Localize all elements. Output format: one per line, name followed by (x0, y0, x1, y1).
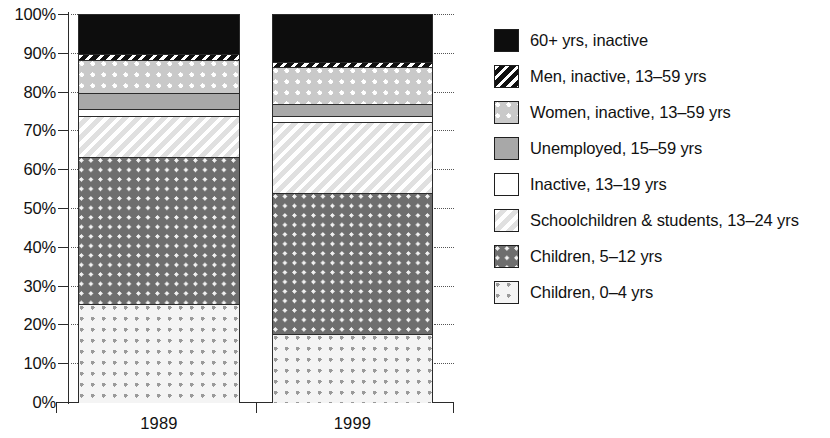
y-gridline-dots-left-90 (71, 53, 78, 54)
legend-item: Schoolchildren & students, 13–24 yrs (494, 202, 830, 238)
legend-swatch-hatch-bold-icon (494, 65, 519, 88)
y-axis-tick-mark-100 (58, 14, 69, 15)
y-gridline-dots-right-40 (434, 247, 454, 248)
y-axis-tick-mark-80 (58, 92, 69, 93)
legend-swatch-dot-light-icon (494, 101, 519, 124)
legend-swatch-solid-black-icon (494, 29, 519, 52)
y-axis-tick-mark-30 (58, 286, 69, 287)
legend-item: Women, inactive, 13–59 yrs (494, 94, 830, 130)
legend-item: Men, inactive, 13–59 yrs (494, 58, 830, 94)
y-gridline-dots-left-20 (71, 324, 78, 325)
bar-segment-1989-2 (79, 116, 239, 157)
y-axis-tick-mark-40 (58, 247, 69, 248)
y-axis-tick-mark-70 (58, 130, 69, 131)
bar-segment-1989-1 (79, 157, 239, 304)
legend-item-label: Women, inactive, 13–59 yrs (530, 103, 731, 122)
y-gridline-dots-left-60 (71, 169, 78, 170)
legend: 60+ yrs, inactiveMen, inactive, 13–59 yr… (494, 22, 830, 310)
legend-item: Children, 0–4 yrs (494, 274, 830, 310)
legend-swatch-solid-gray-icon (494, 137, 519, 160)
bar-1999 (272, 14, 433, 402)
y-gridline-dots-right-30 (434, 286, 454, 287)
y-gridline-dots-right-70 (434, 130, 454, 131)
y-gridline-dots-right-60 (434, 169, 454, 170)
legend-item-label: Men, inactive, 13–59 yrs (530, 67, 706, 86)
bar-segment-1999-3 (273, 116, 432, 122)
legend-item: Inactive, 13–19 yrs (494, 166, 830, 202)
legend-swatch-dot-dark-icon (494, 245, 519, 268)
legend-item-label: Unemployed, 15–59 yrs (530, 139, 702, 158)
bar-segment-1989-5 (79, 60, 239, 94)
y-gridline-dots-left-80 (71, 92, 78, 93)
y-gridline-dots-right-80 (434, 92, 454, 93)
legend-item: 60+ yrs, inactive (494, 22, 830, 58)
y-gridline-dots-right-90 (434, 53, 454, 54)
y-axis-tick-mark-60 (58, 169, 69, 170)
bar-segment-1999-0 (273, 334, 432, 403)
y-gridline-dots-left-50 (71, 208, 78, 209)
bar-segment-1999-4 (273, 104, 432, 116)
y-axis-tick-mark-50 (58, 208, 69, 209)
legend-item-label: Children, 0–4 yrs (530, 283, 653, 302)
x-axis-label-1999: 1999 (272, 414, 433, 433)
legend-swatch-white-icon (494, 173, 519, 196)
y-gridline-dots-left-10 (71, 363, 78, 364)
x-axis-tick-mark-1 (256, 402, 257, 413)
y-gridline-dots-right-20 (434, 324, 454, 325)
bar-segment-1989-3 (79, 109, 239, 116)
bar-segment-1999-1 (273, 193, 432, 333)
legend-item-label: Inactive, 13–19 yrs (530, 175, 667, 194)
plot-area: 1989 1999 (0, 0, 460, 438)
y-gridline-dots-right-50 (434, 208, 454, 209)
bar-segment-1989-0 (79, 304, 239, 403)
bar-segment-1999-5 (273, 67, 432, 104)
y-gridline-dots-left-30 (71, 286, 78, 287)
bar-segment-1999-6 (273, 62, 432, 68)
legend-swatch-dot-sparse-icon (494, 281, 519, 304)
x-axis-tick-mark-0 (56, 402, 57, 413)
legend-item: Unemployed, 15–59 yrs (494, 130, 830, 166)
y-axis-tick-mark-0 (58, 402, 69, 403)
legend-item-label: Children, 5–12 yrs (530, 247, 662, 266)
bar-segment-1989-4 (79, 93, 239, 109)
y-axis-tick-mark-90 (58, 53, 69, 54)
y-axis-tick-mark-20 (58, 324, 69, 325)
bar-1989 (78, 14, 240, 402)
y-axis-tick-mark-10 (58, 363, 69, 364)
stacked-bar-chart: 100%90%80%70%60%50%40%30%20%10%0% 1989 1… (0, 0, 830, 438)
y-gridline-dots-right-10 (434, 363, 454, 364)
bar-segment-1999-7 (273, 15, 432, 62)
y-gridline-dots-left-40 (71, 247, 78, 248)
legend-item-label: Schoolchildren & students, 13–24 yrs (530, 211, 799, 230)
bar-segment-1999-2 (273, 122, 432, 194)
y-gridline-dots-left-100 (71, 14, 78, 15)
legend-swatch-hatch-light-icon (494, 209, 519, 232)
legend-item-label: 60+ yrs, inactive (530, 31, 648, 50)
x-axis-label-1989: 1989 (78, 414, 240, 433)
legend-item: Children, 5–12 yrs (494, 238, 830, 274)
y-gridline-dots-left-70 (71, 130, 78, 131)
bar-segment-1989-7 (79, 15, 239, 54)
x-axis-tick-mark-2 (453, 402, 454, 413)
bar-segment-1989-6 (79, 54, 239, 60)
y-gridline-dots-right-100 (434, 14, 454, 15)
